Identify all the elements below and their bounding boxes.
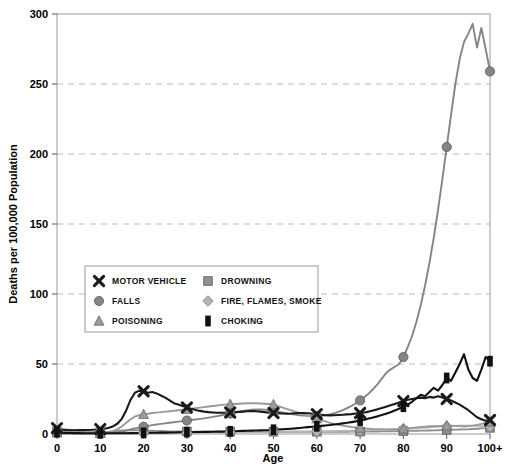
marker-choking (487, 356, 493, 367)
chart-legend: MOTOR VEHICLEDROWNINGFALLSFIRE, FLAMES, … (85, 266, 322, 332)
x-tick-label: 30 (181, 442, 193, 454)
legend-item[interactable]: FALLS (94, 296, 140, 306)
marker-falls (356, 396, 365, 405)
legend-label: DROWNING (221, 276, 272, 286)
chart-container: 050100150200250300 010203040506070809010… (0, 0, 515, 470)
chart-background (0, 0, 515, 470)
marker-choking (227, 426, 233, 437)
y-tick-label: 250 (30, 78, 48, 90)
bar-marker (205, 316, 211, 327)
deaths-by-age-line-chart: 050100150200250300 010203040506070809010… (0, 0, 515, 470)
marker-choking (271, 424, 277, 435)
y-axis-title: Deaths per 100,000 Population (7, 144, 19, 304)
marker-choking (54, 427, 60, 438)
legend-label: POISONING (112, 316, 163, 326)
y-tick-label: 0 (42, 428, 48, 440)
legend-label: FIRE, FLAMES, SMOKE (221, 296, 322, 306)
x-tick-label: 40 (224, 442, 236, 454)
x-tick-label: 80 (397, 442, 409, 454)
y-tick-label: 100 (30, 288, 48, 300)
marker-falls (182, 416, 191, 425)
legend-label: CHOKING (221, 316, 263, 326)
x-tick-label: 100+ (478, 442, 503, 454)
x-tick-label: 70 (354, 442, 366, 454)
y-tick-label: 50 (36, 358, 48, 370)
x-tick-label: 0 (54, 442, 60, 454)
x-tick-label: 10 (94, 442, 106, 454)
legend-item[interactable]: FIRE, FLAMES, SMOKE (203, 296, 322, 306)
y-tick-label: 300 (30, 8, 48, 20)
x-tick-label: 20 (137, 442, 149, 454)
marker-choking (141, 427, 147, 438)
marker-choking (98, 428, 104, 439)
marker-choking (401, 401, 407, 412)
marker-falls (485, 67, 494, 76)
legend-label: FALLS (112, 296, 140, 306)
marker-choking (314, 421, 320, 432)
x-tick-label: 60 (311, 442, 323, 454)
legend-label: MOTOR VEHICLE (112, 276, 187, 286)
square-marker (204, 277, 213, 286)
marker-choking (184, 427, 190, 438)
x-tick-label: 90 (441, 442, 453, 454)
x-axis-title: Age (263, 452, 284, 464)
y-tick-label: 200 (30, 148, 48, 160)
y-tick-label: 150 (30, 218, 48, 230)
marker-choking (444, 373, 450, 384)
circle-marker (94, 296, 103, 305)
marker-choking (357, 415, 363, 426)
marker-falls (399, 352, 408, 361)
marker-falls (442, 142, 451, 151)
